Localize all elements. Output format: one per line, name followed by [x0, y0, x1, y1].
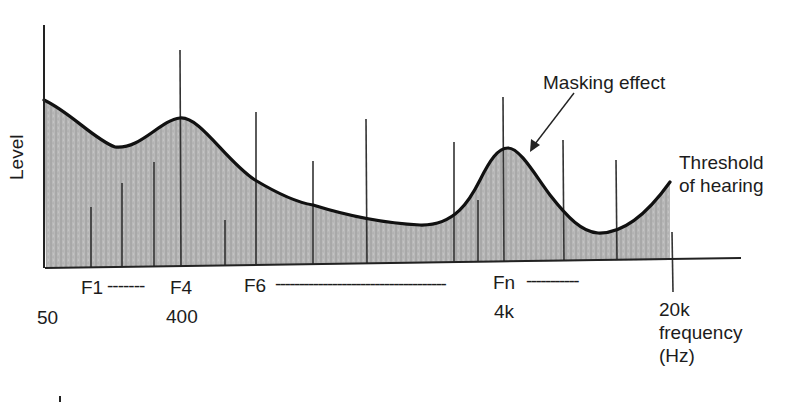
masked-area [44, 100, 670, 268]
y-axis-label: Level [6, 135, 28, 180]
band-dash-f6-fn: ------------------------------------ [275, 273, 445, 295]
band-label-f6: F6 [244, 275, 266, 297]
band-label-f4: F4 [170, 277, 192, 299]
masking-arrow [530, 93, 574, 152]
masking-diagram: Level Masking effect Threshold of hearin… [0, 0, 789, 402]
tick-4k: 4k [494, 301, 514, 323]
tick-400: 400 [166, 306, 198, 328]
band-dash-f1-f4: ------- [107, 275, 144, 297]
band-label-fn: Fn [493, 272, 515, 294]
band-label-f1: F1 [81, 277, 103, 299]
band-dash-fn-end: ----------- [526, 270, 578, 292]
x-axis-label-line2: (Hz) [659, 345, 695, 367]
x-axis-label-line1: frequency [659, 322, 742, 344]
threshold-label-line1: Threshold [679, 152, 764, 174]
threshold-label-line2: of hearing [679, 175, 764, 197]
tick-20k: 20k [659, 299, 690, 321]
masking-effect-label: Masking effect [543, 72, 665, 94]
tick-50: 50 [37, 307, 58, 329]
